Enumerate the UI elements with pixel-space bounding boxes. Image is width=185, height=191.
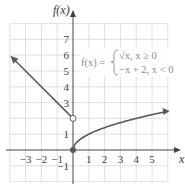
formula-lhs: f(x) =: [81, 57, 105, 69]
formula-case-1: √x, x ≥ 0: [119, 50, 157, 61]
svg-text:4: 4: [64, 81, 70, 93]
axes: x f(x): [6, 3, 185, 184]
svg-text:6: 6: [64, 49, 70, 61]
right-branch-arrow-icon: [163, 108, 170, 115]
svg-text:3: 3: [64, 97, 70, 109]
formula-annotation: f(x) = √x, x ≥ 0 −x + 2, x < 0: [80, 47, 184, 77]
svg-text:4: 4: [133, 153, 139, 165]
closed-circle-point: [70, 147, 76, 153]
formula-case-2: −x + 2, x < 0: [119, 64, 174, 75]
svg-text:−2: −2: [36, 153, 48, 165]
svg-text:2: 2: [102, 153, 108, 165]
svg-text:7: 7: [64, 33, 70, 45]
y-axis-arrow-icon: [70, 10, 76, 17]
svg-text:5: 5: [149, 153, 155, 165]
open-circle-point: [70, 115, 76, 121]
svg-text:1: 1: [64, 128, 70, 140]
svg-text:−1: −1: [57, 160, 69, 172]
y-axis-label: f(x): [53, 3, 70, 17]
x-axis-label: x: [178, 152, 185, 166]
svg-text:−3: −3: [20, 153, 32, 165]
sqrt-branch: [73, 112, 165, 150]
svg-text:1: 1: [86, 153, 92, 165]
svg-text:5: 5: [64, 65, 70, 77]
svg-text:3: 3: [118, 153, 124, 165]
piecewise-function-chart: x f(x) −3−2−112345−1134567 f(x) = √x, x …: [0, 0, 185, 191]
